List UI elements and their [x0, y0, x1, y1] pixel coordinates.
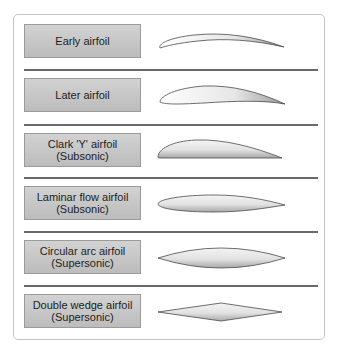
- early-airfoil-shape: [154, 24, 294, 58]
- label-clark-y-airfoil: Clark 'Y' airfoil (Subsonic): [24, 133, 141, 167]
- label-circular-arc-airfoil: Circular arc airfoil (Supersonic): [24, 240, 141, 274]
- divider: [24, 285, 318, 287]
- divider: [24, 177, 318, 179]
- later-airfoil-shape: [154, 78, 294, 112]
- label-early-airfoil: Early airfoil: [24, 24, 141, 58]
- circular-arc-airfoil-shape: [154, 240, 294, 274]
- label-laminar-flow-airfoil: Laminar flow airfoil (Subsonic): [24, 186, 141, 220]
- divider: [24, 69, 318, 71]
- divider: [24, 124, 318, 126]
- label-double-wedge-airfoil: Double wedge airfoil (Supersonic): [24, 294, 141, 328]
- laminar-flow-airfoil-shape: [154, 186, 294, 220]
- label-later-airfoil: Later airfoil: [24, 78, 141, 112]
- clark-y-airfoil-shape: [154, 133, 294, 167]
- divider: [24, 231, 318, 233]
- double-wedge-airfoil-shape: [154, 294, 294, 328]
